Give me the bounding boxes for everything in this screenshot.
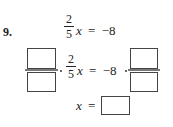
line1-fraction: 2 5 — [64, 13, 74, 40]
line1-equals: = — [88, 23, 95, 38]
left-denominator-box[interactable] — [27, 72, 56, 92]
line3-equation: x = — [76, 98, 98, 114]
multiply-dot — [125, 70, 127, 72]
line1-rhs: −8 — [102, 23, 116, 38]
line2-var: x — [77, 63, 83, 78]
line3-equals: = — [88, 98, 95, 113]
line1-var: x — [76, 23, 82, 38]
line1-coef-denominator: 5 — [64, 28, 74, 40]
right-numerator-box[interactable] — [130, 48, 158, 69]
line1-coef-numerator: 2 — [64, 13, 74, 25]
answer-box[interactable] — [101, 96, 130, 115]
line2-rhs: −8 — [103, 63, 117, 78]
multiply-dot — [60, 70, 62, 72]
line2-fraction: 2 5 — [66, 53, 76, 80]
line2-coef-denominator: 5 — [66, 68, 76, 80]
left-numerator-box[interactable] — [27, 48, 56, 69]
problem-number: 9. — [3, 25, 12, 40]
line1-equation: x = −8 — [76, 23, 115, 39]
line3-var: x — [76, 98, 82, 113]
line2-equation: x = −8 — [77, 63, 116, 79]
line2-coef-numerator: 2 — [66, 53, 76, 65]
right-denominator-box[interactable] — [130, 72, 158, 92]
left-fraction-bar — [25, 69, 58, 71]
line2-equals: = — [89, 63, 96, 78]
right-fraction-bar — [128, 69, 160, 71]
